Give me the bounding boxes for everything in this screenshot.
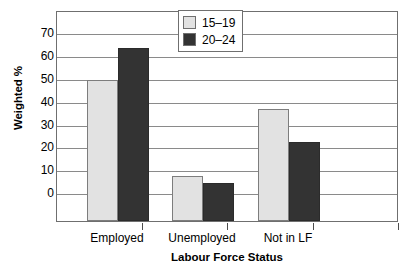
x-axis-title: Labour Force Status [56,251,398,263]
bar-chart: Weighted % 010203040506070 EmployedUnemp… [0,0,408,271]
y-axis-tick-label: 40 [14,96,54,108]
x-axis-category-label: Not in LF [264,231,313,245]
x-axis-category-label: Employed [90,231,143,245]
y-axis-tick-label: 60 [14,50,54,62]
legend-item: 15–19 [183,14,235,31]
y-axis-tick-label: 10 [14,164,54,176]
legend: 15–19 20–24 [178,10,243,52]
bar [118,48,149,221]
y-axis-tick-label: 30 [14,119,54,131]
legend-item-label: 15–19 [202,17,235,29]
legend-item: 20–24 [183,31,235,48]
x-axis-category-label: Unemployed [168,231,235,245]
bar [172,176,203,221]
x-axis-tick [398,223,399,230]
y-axis-tick-label: 20 [14,141,54,153]
light-gray-swatch-icon [183,16,196,29]
bar [289,142,320,221]
y-axis-tick-label: 50 [14,73,54,85]
bar [258,109,289,221]
x-axis-tick [227,223,228,230]
x-axis-tick [313,223,314,230]
y-axis-tick-label: 0 [14,187,54,199]
y-axis-tick-label: 70 [14,27,54,39]
legend-item-label: 20–24 [202,34,235,46]
dark-swatch-icon [183,33,196,46]
x-axis-tick [142,223,143,230]
bar [87,80,118,221]
bar [203,183,234,221]
